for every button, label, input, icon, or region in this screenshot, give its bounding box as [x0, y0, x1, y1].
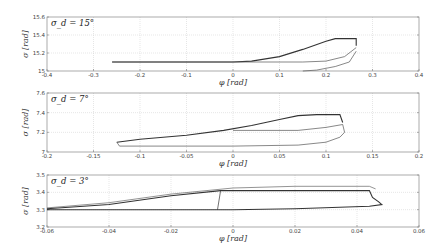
series-middle	[112, 48, 356, 62]
x-tick-label: -0.1	[135, 153, 146, 159]
y-tick-label: 15.6	[33, 14, 46, 20]
y-tick-label: 7.2	[36, 129, 45, 135]
sigma-d-annotation: σ_d = 7°	[51, 94, 89, 105]
y-tick-label: 15.2	[33, 50, 45, 56]
x-tick-label: -0.04	[102, 228, 117, 234]
y-tick-label: 15.4	[33, 32, 46, 38]
x-tick-label: -0.3	[88, 72, 99, 78]
y-tick-label: 7.6	[36, 90, 45, 96]
x-tick-label: 0.05	[273, 153, 286, 159]
x-tick-label: -0.05	[179, 153, 194, 159]
y-tick-label: 3.2	[36, 224, 45, 230]
series-upper	[117, 115, 343, 143]
subplot-2: -0.2-0.15-0.1-0.0500.050.10.150.277.27.4…	[21, 90, 423, 168]
x-tick-label: 0.15	[366, 153, 379, 159]
y-tick-label: 7	[42, 149, 46, 155]
y-tick-label: 3.4	[36, 189, 45, 195]
subplot-3: -0.06-0.04-0.0200.020.040.063.23.33.43.5…	[21, 172, 426, 243]
x-tick-label: 0.3	[368, 72, 377, 78]
y-tick-label: 7.4	[36, 110, 45, 116]
x-tick-label: -0.1	[181, 72, 192, 78]
x-tick-label: 0.04	[351, 228, 364, 234]
x-tick-label: 0.02	[289, 228, 301, 234]
y-tick-label: 3.3	[36, 207, 45, 213]
x-axis-label: φ [rad]	[219, 234, 248, 243]
x-tick-label: -0.02	[164, 228, 178, 234]
sigma-d-annotation: σ_d = 15°	[51, 18, 94, 29]
figure: -0.4-0.3-0.2-0.100.10.20.30.41515.215.41…	[0, 0, 445, 251]
y-tick-label: 15	[38, 68, 45, 74]
x-tick-label: -0.2	[135, 72, 146, 78]
series-connector	[218, 191, 221, 210]
y-tick-label: 3.5	[36, 172, 45, 178]
x-tick-label: -0.15	[86, 153, 101, 159]
subplot-1: -0.4-0.3-0.2-0.100.10.20.30.41515.215.41…	[21, 14, 424, 87]
series-lower	[117, 125, 345, 147]
x-tick-label: 0.06	[413, 228, 426, 234]
sigma-d-annotation: σ_d = 3°	[51, 176, 89, 187]
x-tick-label: 0.1	[322, 153, 331, 159]
x-tick-label: 0.2	[415, 153, 424, 159]
series-upper	[112, 39, 356, 62]
series-top	[47, 186, 376, 208]
y-axis-label: σ [rad]	[21, 186, 30, 215]
y-axis-label: σ [rad]	[21, 108, 30, 137]
x-tick-label: 0.4	[415, 72, 424, 78]
x-axis-label: φ [rad]	[219, 78, 248, 87]
x-axis-label: φ [rad]	[219, 159, 248, 168]
y-axis-label: σ [rad]	[21, 29, 30, 58]
x-tick-label: 0.2	[322, 72, 331, 78]
series-upper	[47, 191, 382, 210]
x-tick-label: 0.1	[275, 72, 284, 78]
